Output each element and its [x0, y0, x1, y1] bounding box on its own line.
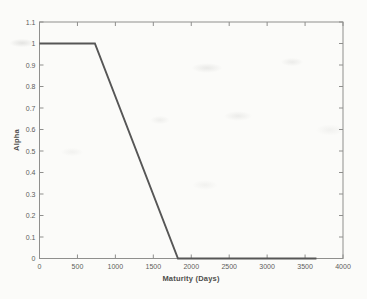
x-tick-label: 1500: [146, 263, 162, 270]
x-tick-label: 0: [38, 263, 42, 270]
y-tick-label: 0.1: [26, 234, 36, 241]
y-tick-label: 0.5: [26, 148, 36, 155]
y-tick-label: 0: [32, 255, 36, 262]
x-tick-label: 3000: [259, 263, 275, 270]
y-tick-label: 0.4: [26, 169, 36, 176]
y-tick-label: 0.2: [26, 212, 36, 219]
y-tick-label: 0.8: [26, 83, 36, 90]
x-tick-label: 4000: [335, 263, 351, 270]
x-tick-label: 1000: [108, 263, 124, 270]
data-line-alpha-profile: [40, 44, 317, 259]
y-tick-label: 1: [32, 40, 36, 47]
x-tick-label: 3500: [297, 263, 313, 270]
y-tick-label: 0.9: [26, 62, 36, 69]
y-tick-label: 0.7: [26, 105, 36, 112]
x-tick-label: 2000: [183, 263, 199, 270]
x-axis-title: Maturity (Days): [162, 274, 219, 283]
y-axis-title: Alpha: [12, 129, 21, 151]
chart-figure: 0500100015002000250030003500400000.10.20…: [0, 0, 367, 299]
x-tick-label: 2500: [221, 263, 237, 270]
plot-box-border: [40, 22, 344, 259]
plot-area: 0500100015002000250030003500400000.10.20…: [0, 0, 367, 299]
x-tick-label: 500: [72, 263, 84, 270]
y-tick-label: 1.1: [26, 19, 36, 26]
y-tick-label: 0.3: [26, 191, 36, 198]
y-tick-label: 0.6: [26, 126, 36, 133]
